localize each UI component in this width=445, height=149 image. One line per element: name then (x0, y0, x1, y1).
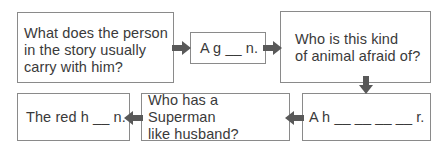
arrow-left-icon (123, 111, 143, 125)
arrow-right-icon (263, 41, 283, 55)
question-text: Who is this kind of animal afraid of? (295, 31, 420, 65)
question-text: Who has a Superman like husband? (148, 92, 289, 143)
arrow-down-icon (359, 76, 373, 95)
question-box-what-carry: What does the person in the story usuall… (17, 12, 174, 83)
answer-text: The red h __ n. (26, 109, 126, 126)
arrow-right-icon (172, 41, 192, 55)
answer-box-hunter: A h __ __ __ __ r. (302, 93, 431, 141)
answer-text: A h __ __ __ __ r. (309, 109, 424, 126)
question-text: What does the person in the story usuall… (24, 25, 168, 76)
arrow-left-icon (284, 111, 304, 125)
answer-text: A g __ n. (200, 40, 258, 57)
question-box-superman-husband: Who has a Superman like husband? (141, 93, 290, 141)
answer-box-gun: A g __ n. (190, 32, 266, 64)
question-box-afraid-of: Who is this kind of animal afraid of? (280, 11, 431, 83)
answer-box-red-hen: The red h __ n. (17, 93, 130, 141)
